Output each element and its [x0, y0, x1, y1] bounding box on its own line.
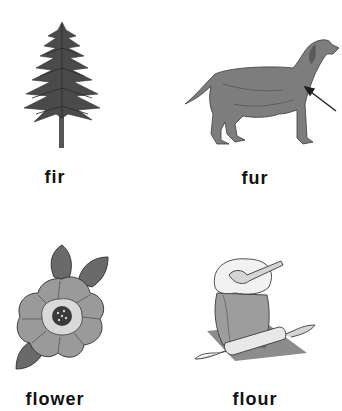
word-label-flour: flour	[225, 389, 285, 410]
card-fir: fir	[0, 0, 171, 205]
dog-with-arrow-icon	[183, 34, 342, 149]
card-fur: fur	[171, 0, 342, 205]
flour-sack-icon	[195, 255, 319, 367]
flower-icon	[12, 243, 112, 373]
fir-tree-icon	[18, 18, 108, 150]
card-flower: flower	[0, 205, 171, 411]
word-label-flower: flower	[18, 389, 92, 410]
word-label-fir: fir	[35, 167, 75, 188]
card-flour: flour	[171, 205, 342, 411]
word-label-fur: fur	[235, 168, 275, 189]
